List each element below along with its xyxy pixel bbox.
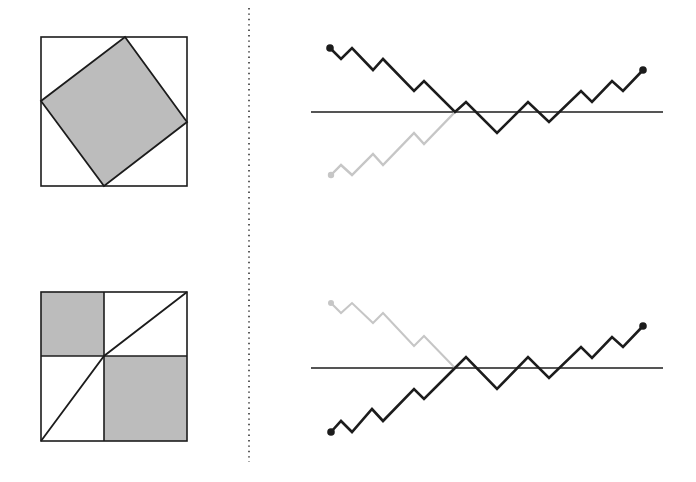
bottom-right-reflected-path	[331, 303, 455, 368]
bottom-right-end-dot	[639, 322, 647, 330]
bottom-left-shaded-quadrant-bottom-right	[104, 356, 187, 441]
bottom-right-reflected-start-dot	[328, 300, 334, 306]
top-right-start-dot	[326, 44, 334, 52]
diagram-canvas	[0, 0, 696, 482]
top-right-lattice-figure	[311, 44, 663, 178]
top-right-reflected-start-dot	[328, 172, 334, 178]
top-right-reflected-path	[331, 112, 455, 175]
bottom-right-lattice-path	[331, 326, 643, 432]
bottom-left-shaded-quadrant-top-left	[41, 292, 104, 356]
bottom-left-square-figure	[41, 292, 187, 441]
top-right-end-dot	[639, 66, 647, 74]
top-right-lattice-path	[330, 48, 643, 133]
bottom-right-lattice-figure	[311, 300, 663, 436]
top-left-square-figure	[41, 37, 187, 186]
top-left-rotated-shaded-square	[41, 37, 187, 186]
bottom-right-start-dot	[327, 428, 335, 436]
